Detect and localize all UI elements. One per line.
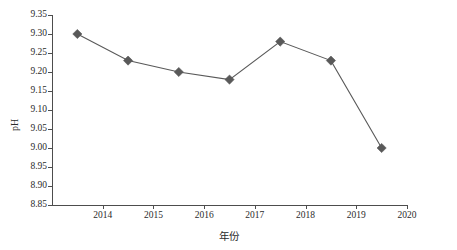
y-tick-label: 9.15	[30, 86, 47, 96]
x-tick-label: 2019	[347, 211, 366, 221]
data-point-marker	[123, 56, 132, 65]
x-tick-label: 2018	[296, 211, 315, 221]
data-point-marker	[326, 56, 335, 65]
y-tick-label: 9.05	[30, 124, 47, 134]
data-point-marker	[174, 67, 183, 76]
series-line	[77, 34, 381, 148]
plot-area: 8.858.908.959.009.059.109.159.209.259.30…	[52, 15, 407, 205]
x-tick	[306, 205, 307, 209]
data-point-marker	[377, 143, 386, 152]
y-tick-label: 9.35	[30, 10, 47, 20]
y-tick-label: 9.20	[30, 67, 47, 77]
y-tick-label: 8.95	[30, 162, 47, 172]
x-tick-label: 2017	[245, 211, 264, 221]
y-tick-label: 9.10	[30, 105, 47, 115]
x-tick-label: 2015	[144, 211, 163, 221]
x-tick	[356, 205, 357, 209]
ph-line-chart: pH 年份 8.858.908.959.009.059.109.159.209.…	[0, 0, 457, 250]
x-tick	[153, 205, 154, 209]
y-tick-label: 8.90	[30, 181, 47, 191]
y-axis-title: pH	[9, 119, 20, 131]
x-axis-title: 年份	[0, 228, 457, 243]
x-tick	[407, 205, 408, 209]
x-tick	[204, 205, 205, 209]
data-point-marker	[73, 29, 82, 38]
x-axis-spine	[52, 205, 408, 206]
y-tick-label: 8.85	[30, 200, 47, 210]
x-tick	[255, 205, 256, 209]
x-tick-label: 2016	[195, 211, 214, 221]
x-tick-label: 2014	[93, 211, 112, 221]
data-point-marker	[225, 75, 234, 84]
y-tick-label: 9.30	[30, 29, 47, 39]
x-tick	[103, 205, 104, 209]
y-tick	[48, 205, 52, 206]
y-tick-label: 9.25	[30, 48, 47, 58]
y-tick-label: 9.00	[30, 143, 47, 153]
data-series-ph	[52, 15, 407, 205]
data-point-marker	[276, 37, 285, 46]
x-tick-label: 2020	[398, 211, 417, 221]
